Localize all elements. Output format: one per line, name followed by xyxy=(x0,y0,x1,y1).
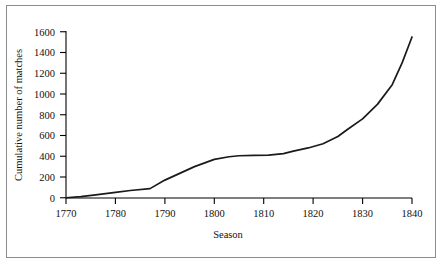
y-tick-label: 400 xyxy=(39,151,55,162)
y-tick-label: 1600 xyxy=(34,27,55,38)
x-tick-label: 1770 xyxy=(56,208,77,219)
x-tick-label: 1840 xyxy=(402,208,423,219)
x-tick-labels: 1770 1780 1790 1800 1810 1820 1830 1840 xyxy=(56,208,423,219)
y-tick-label: 1200 xyxy=(34,68,55,79)
x-tick-marks xyxy=(66,198,412,204)
y-tick-marks xyxy=(60,32,66,198)
y-axis-title: Cumulative number of matches xyxy=(13,49,24,181)
y-tick-label: 1000 xyxy=(34,89,55,100)
x-tick-label: 1810 xyxy=(253,208,274,219)
y-tick-label: 600 xyxy=(39,130,55,141)
x-axis-title: Season xyxy=(213,229,243,240)
x-tick-label: 1830 xyxy=(352,208,373,219)
x-tick-label: 1780 xyxy=(105,208,126,219)
chart-plot-area: 1600 1400 1200 1000 800 600 400 200 0 17… xyxy=(0,0,443,266)
y-tick-label: 200 xyxy=(39,172,55,183)
y-tick-label: 800 xyxy=(39,110,55,121)
chart-page: 1600 1400 1200 1000 800 600 400 200 0 17… xyxy=(0,0,443,266)
x-tick-label: 1800 xyxy=(204,208,225,219)
y-tick-label: 0 xyxy=(50,193,55,204)
x-tick-label: 1790 xyxy=(154,208,175,219)
y-tick-label: 1400 xyxy=(34,47,55,58)
data-series-line xyxy=(66,37,412,198)
x-tick-label: 1820 xyxy=(303,208,324,219)
y-tick-labels: 1600 1400 1200 1000 800 600 400 200 0 xyxy=(34,27,55,204)
